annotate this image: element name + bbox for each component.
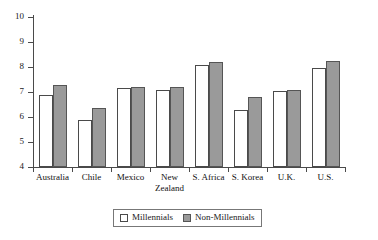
legend-item-millennials: Millennials [120, 212, 173, 223]
legend-label-millennials: Millennials [132, 212, 173, 223]
chart-legend: Millennials Non-Millennials [113, 209, 262, 227]
y-axis-tick-label: 5 [2, 137, 24, 146]
bar-group [312, 17, 340, 167]
bar-non-millennials [53, 85, 67, 168]
bar-millennials [78, 120, 92, 168]
legend-label-non-millennials: Non-Millennials [195, 212, 255, 223]
bar-non-millennials [248, 97, 262, 167]
bar-group [234, 17, 262, 167]
bar-group [39, 17, 67, 167]
legend-item-non-millennials: Non-Millennials [183, 212, 255, 223]
bar-non-millennials [92, 108, 106, 167]
y-axis-tick-label: 10 [2, 12, 24, 21]
bar-non-millennials [131, 87, 145, 167]
bar-millennials [234, 110, 248, 168]
bar-millennials [117, 88, 131, 167]
bar-group [156, 17, 184, 167]
bar-non-millennials [287, 90, 301, 168]
bar-millennials [39, 95, 53, 168]
bar-millennials [273, 91, 287, 167]
x-axis-label-u-s: U.S. [300, 172, 351, 183]
bar-millennials [195, 65, 209, 168]
y-axis-tick-label: 6 [2, 112, 24, 121]
bar-non-millennials [209, 62, 223, 167]
white-square-swatch-icon [120, 214, 128, 222]
bar-group [117, 17, 145, 167]
gray-square-swatch-icon [183, 214, 191, 222]
y-axis-tick-label: 7 [2, 87, 24, 96]
y-axis-tick-label: 4 [2, 162, 24, 171]
plot-area [33, 17, 345, 167]
bar-millennials [312, 68, 326, 167]
x-axis-label-line: Zealand [144, 183, 195, 194]
bar-non-millennials [170, 87, 184, 167]
bar-group [78, 17, 106, 167]
y-axis-tick-label: 9 [2, 37, 24, 46]
x-axis-label-line: U.S. [300, 172, 351, 183]
bar-group [273, 17, 301, 167]
y-axis-tick-label: 8 [2, 62, 24, 71]
bar-non-millennials [326, 61, 340, 167]
bar-millennials [156, 90, 170, 168]
grouped-bar-chart: 10987654 AustraliaChileMexicoNewZealandS… [0, 0, 378, 240]
bar-group [195, 17, 223, 167]
